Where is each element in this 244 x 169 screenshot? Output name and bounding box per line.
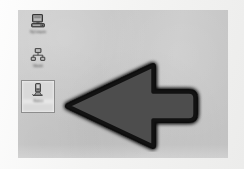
desktop-icon-label: My Computer xyxy=(23,30,53,35)
annotation-arrow-left xyxy=(58,54,203,152)
desktop-surface[interactable]: My Computer Network xyxy=(18,10,228,158)
desktop-icon-label: Network xyxy=(23,64,53,69)
desktop-icon-my-computer[interactable]: My Computer xyxy=(21,12,55,45)
desktop-icon-label: Shortcut xyxy=(23,99,53,104)
network-icon xyxy=(30,47,46,63)
desktop-icon-column: My Computer Network xyxy=(21,12,59,114)
shortcut-icon xyxy=(30,82,46,98)
desktop-icon-selected-shortcut[interactable]: Shortcut xyxy=(21,80,55,113)
screenshot-root: My Computer Network xyxy=(0,0,244,169)
computer-icon xyxy=(30,13,46,29)
desktop-icon-network[interactable]: Network xyxy=(21,46,55,79)
desktop-bottom-highlight xyxy=(18,144,228,158)
